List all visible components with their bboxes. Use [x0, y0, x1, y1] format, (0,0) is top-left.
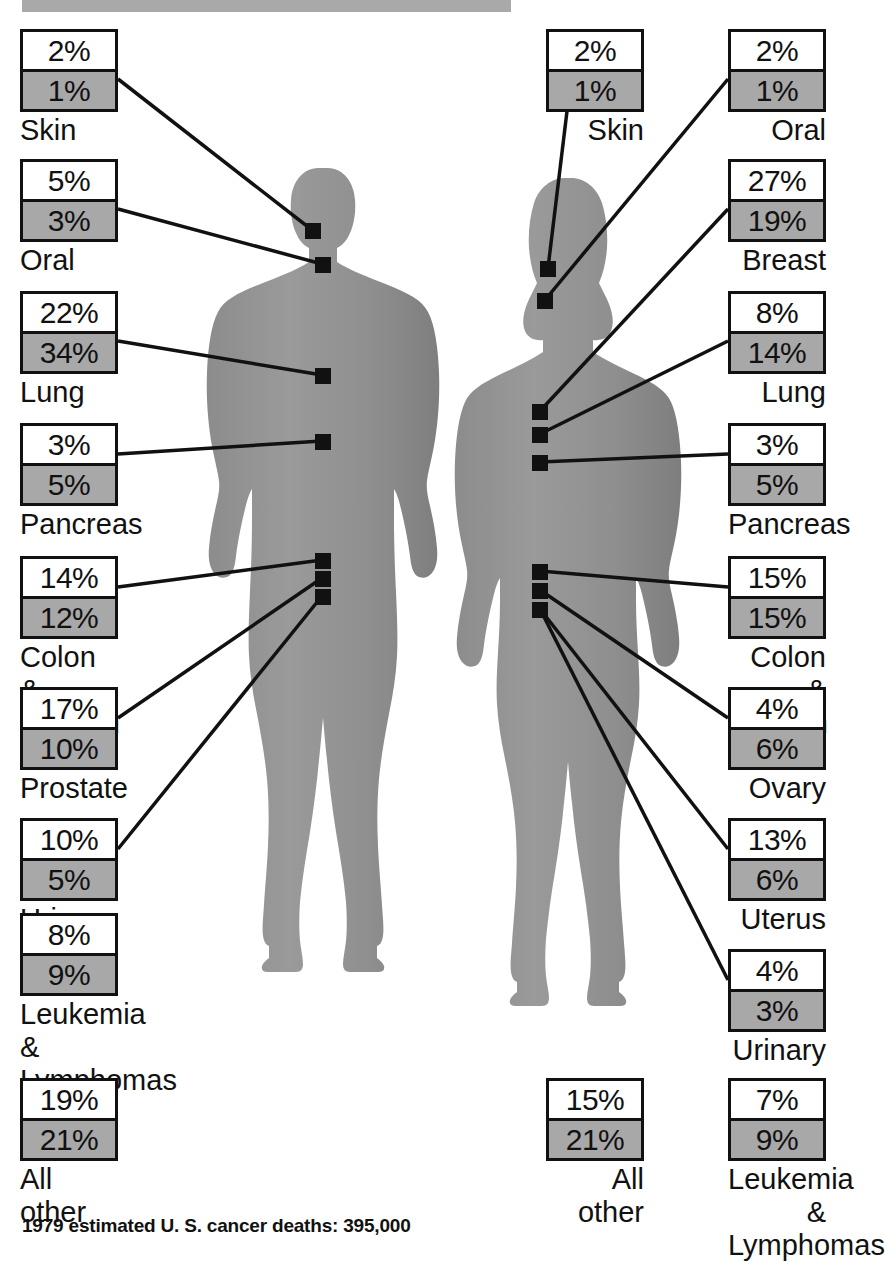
deaths-value: 21%	[549, 1118, 641, 1158]
stat-female-ovary[interactable]: 4% 6% Ovary	[728, 687, 826, 805]
site-label: Skin	[20, 114, 118, 147]
incidence-value: 4%	[731, 952, 823, 989]
stat-female-leukemia-lymphomas[interactable]: 7% 9% Leukemia & Lymphomas	[728, 1078, 826, 1262]
stat-box: 4% 6%	[728, 687, 826, 770]
deaths-value: 1%	[23, 69, 115, 109]
stat-female-lung[interactable]: 8% 14% Lung	[728, 291, 826, 409]
stat-female-uterus[interactable]: 13% 6% Uterus	[728, 818, 826, 936]
incidence-value: 14%	[23, 559, 115, 596]
site-label: Pancreas	[20, 508, 118, 541]
stat-box: 27% 19%	[728, 159, 826, 242]
incidence-value: 2%	[731, 32, 823, 69]
deaths-value: 10%	[23, 727, 115, 767]
stat-female-urinary[interactable]: 4% 3% Urinary	[728, 949, 826, 1067]
deaths-value: 21%	[23, 1118, 115, 1158]
stat-male-lung[interactable]: 22% 34% Lung	[20, 291, 118, 409]
stat-male-leukemia-lymphomas[interactable]: 8% 9% Leukemia & Lymphomas	[20, 913, 118, 1097]
deaths-value: 1%	[731, 69, 823, 109]
stat-male-all-other[interactable]: 19% 21% All other	[20, 1078, 118, 1229]
stat-female-oral[interactable]: 2% 1% Oral	[728, 29, 826, 147]
site-label: Ovary	[728, 772, 826, 805]
stat-box: 8% 14%	[728, 291, 826, 374]
incidence-value: 19%	[23, 1081, 115, 1118]
incidence-value: 17%	[23, 690, 115, 727]
stat-box: 15% 15%	[728, 556, 826, 639]
incidence-value: 2%	[23, 32, 115, 69]
stat-box: 8% 9%	[20, 913, 118, 996]
stat-female-all-other[interactable]: 15% 21% All other	[546, 1078, 644, 1229]
deaths-value: 15%	[731, 596, 823, 636]
stat-box: 14% 12%	[20, 556, 118, 639]
incidence-value: 3%	[731, 426, 823, 463]
stat-box: 2% 1%	[546, 29, 644, 112]
site-label: Pancreas	[728, 508, 826, 541]
deaths-value: 12%	[23, 596, 115, 636]
deaths-value: 14%	[731, 331, 823, 371]
stat-box: 2% 1%	[728, 29, 826, 112]
site-label: All other	[546, 1163, 644, 1229]
stat-female-skin[interactable]: 2% 1% Skin	[546, 29, 644, 147]
deaths-value: 6%	[731, 727, 823, 767]
site-label: Lung	[728, 376, 826, 409]
incidence-value: 8%	[731, 294, 823, 331]
deaths-value: 9%	[23, 953, 115, 993]
figure-caption: 1979 estimated U. S. cancer deaths: 395,…	[22, 1215, 411, 1237]
stat-male-prostate[interactable]: 17% 10% Prostate	[20, 687, 118, 805]
male-figure	[207, 168, 440, 972]
incidence-value: 27%	[731, 162, 823, 199]
stat-female-pancreas[interactable]: 3% 5% Pancreas	[728, 423, 826, 541]
stat-box: 4% 3%	[728, 949, 826, 1032]
stat-box: 15% 21%	[546, 1078, 644, 1161]
deaths-value: 3%	[23, 199, 115, 239]
site-label: Urinary	[728, 1034, 826, 1067]
site-label: Breast	[728, 244, 826, 277]
stat-box: 2% 1%	[20, 29, 118, 112]
site-label: Leukemia & Lymphomas	[728, 1163, 826, 1262]
site-label: Oral	[20, 244, 118, 277]
deaths-value: 34%	[23, 331, 115, 371]
incidence-value: 2%	[549, 32, 641, 69]
stat-box: 7% 9%	[728, 1078, 826, 1161]
incidence-value: 3%	[23, 426, 115, 463]
stat-male-oral[interactable]: 5% 3% Oral	[20, 159, 118, 277]
site-label: Oral	[728, 114, 826, 147]
site-label: Lung	[20, 376, 118, 409]
site-label: Prostate	[20, 772, 118, 805]
stat-box: 19% 21%	[20, 1078, 118, 1161]
deaths-value: 5%	[731, 463, 823, 503]
stat-male-pancreas[interactable]: 3% 5% Pancreas	[20, 423, 118, 541]
stat-box: 13% 6%	[728, 818, 826, 901]
incidence-value: 13%	[731, 821, 823, 858]
site-label: Uterus	[728, 903, 826, 936]
deaths-value: 3%	[731, 989, 823, 1029]
deaths-value: 5%	[23, 858, 115, 898]
deaths-value: 5%	[23, 463, 115, 503]
stat-box: 22% 34%	[20, 291, 118, 374]
site-label: Skin	[546, 114, 644, 147]
stat-male-skin[interactable]: 2% 1% Skin	[20, 29, 118, 147]
incidence-value: 15%	[731, 559, 823, 596]
incidence-value: 22%	[23, 294, 115, 331]
stat-box: 10% 5%	[20, 818, 118, 901]
incidence-value: 5%	[23, 162, 115, 199]
stat-box: 3% 5%	[728, 423, 826, 506]
incidence-value: 7%	[731, 1081, 823, 1118]
deaths-value: 19%	[731, 199, 823, 239]
incidence-value: 15%	[549, 1081, 641, 1118]
stat-box: 17% 10%	[20, 687, 118, 770]
deaths-value: 1%	[549, 69, 641, 109]
deaths-value: 9%	[731, 1118, 823, 1158]
incidence-value: 8%	[23, 916, 115, 953]
deaths-value: 6%	[731, 858, 823, 898]
stat-box: 3% 5%	[20, 423, 118, 506]
incidence-value: 10%	[23, 821, 115, 858]
stat-box: 5% 3%	[20, 159, 118, 242]
incidence-value: 4%	[731, 690, 823, 727]
stat-female-breast[interactable]: 27% 19% Breast	[728, 159, 826, 277]
female-figure	[455, 178, 682, 1006]
